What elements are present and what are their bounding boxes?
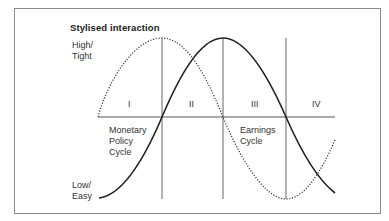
monetary-policy-cycle-curve [99, 38, 335, 198]
earnings-cycle-curve [98, 38, 335, 199]
cycle-diagram [0, 0, 389, 221]
